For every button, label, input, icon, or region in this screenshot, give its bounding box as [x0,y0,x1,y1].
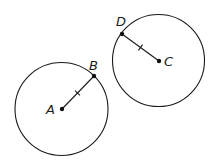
point-label-d: D [116,14,126,29]
labels-group: ABCD [45,14,174,117]
point-c [157,59,161,63]
point-label-b: B [89,58,98,73]
segment-ab [62,76,94,109]
congruence-tick-mark [138,45,142,51]
point-label-a: A [45,102,55,117]
point-d [120,32,124,36]
point-label-c: C [164,54,174,69]
segments-group [62,34,159,109]
circles-group [15,15,205,156]
point-b [92,74,96,78]
points-group [60,32,161,111]
geometry-diagram: ABCD [0,0,212,166]
point-a [60,107,64,111]
